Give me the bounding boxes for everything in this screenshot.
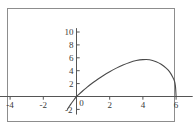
y-tick-label: 2 (60, 79, 74, 88)
x-tick-label: 4 (141, 101, 146, 110)
x-tick-label: -2 (40, 101, 48, 110)
y-tick-label: 8 (60, 40, 74, 49)
y-tick-label: 10 (60, 28, 74, 37)
y-tick-label: 4 (60, 66, 74, 75)
axes-group (0, 28, 193, 114)
x-tick-label: -4 (6, 101, 14, 110)
plot-canvas (0, 0, 196, 135)
y-tick-label: 6 (60, 53, 74, 62)
x-tick-label: 2 (107, 101, 112, 110)
x-tick-label: 6 (174, 101, 179, 110)
chart-figure: -4-20246 -2246810 (0, 0, 196, 135)
x-tick-label: 0 (79, 99, 84, 108)
y-tick-label: -2 (59, 106, 73, 115)
